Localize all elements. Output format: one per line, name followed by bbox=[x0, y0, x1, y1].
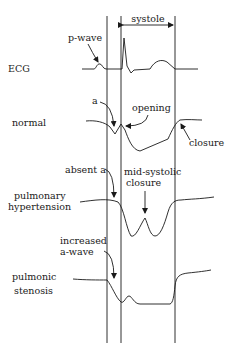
closure-label: closure bbox=[189, 137, 225, 148]
increased-a-wave-label-line2: a-wave bbox=[60, 246, 94, 257]
trace-label-normal: normal bbox=[12, 117, 46, 128]
p-wave-label: p-wave bbox=[68, 32, 102, 43]
absent-a-label: absent a bbox=[65, 164, 106, 175]
absent-a-arrow bbox=[105, 169, 114, 197]
a-label: a bbox=[92, 95, 98, 106]
p-wave-arrow bbox=[88, 44, 98, 62]
mid-systolic-label-line1: mid-systolic bbox=[124, 166, 181, 177]
closure-arrow bbox=[181, 124, 190, 140]
opening-arrow bbox=[126, 115, 148, 126]
trace-label-pulmonary-hypertension-line2: hypertension bbox=[8, 201, 71, 212]
pulmonic-stenosis-trace bbox=[73, 270, 211, 304]
trace-label-pulmonary-hypertension-line1: pulmonary bbox=[14, 190, 66, 201]
opening-label: opening bbox=[132, 102, 171, 113]
trace-label-pulmonic-stenosis-line2: stenosis bbox=[14, 285, 53, 296]
pulmonary-valve-echo-diagram: systole ECG p-wave normal a opening clos… bbox=[0, 0, 229, 358]
ecg-trace bbox=[82, 38, 198, 73]
increased-a-wave-arrow bbox=[104, 251, 114, 278]
normal-trace bbox=[86, 120, 202, 151]
increased-a-wave-label-line1: increased bbox=[60, 235, 107, 246]
systole-label: systole bbox=[131, 13, 165, 24]
trace-label-ecg: ECG bbox=[8, 63, 30, 74]
pulmonary-hypertension-trace bbox=[80, 197, 214, 236]
mid-systolic-label-line2: closure bbox=[126, 177, 162, 188]
trace-label-pulmonic-stenosis-line1: pulmonic bbox=[12, 271, 56, 282]
